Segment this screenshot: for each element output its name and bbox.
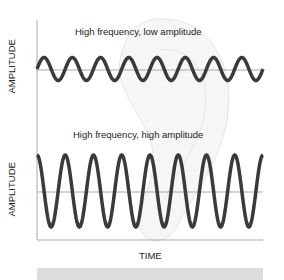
x-axis-label: TIME <box>139 250 162 261</box>
panel-title-top: High frequency, low amplitude <box>75 26 202 37</box>
panel-title-bottom: High frequency, high amplitude <box>73 129 203 140</box>
y-axis-label-bottom: AMPLITUDE <box>6 167 17 217</box>
caption-bar <box>37 268 263 280</box>
y-axis-label-top: AMPLITUDE <box>6 44 17 94</box>
wave-diagram <box>0 0 284 280</box>
